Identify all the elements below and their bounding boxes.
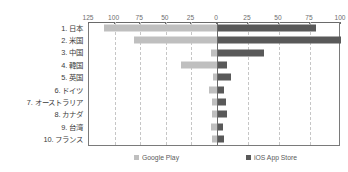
x-axis-tick-labels: 1251007550250255075100 [88, 13, 340, 22]
bar-google-play [181, 62, 217, 69]
x-axis-tick-label: 100 [334, 13, 345, 22]
plot-area [88, 22, 340, 146]
bar-ios-app-store [217, 37, 341, 44]
legend-item-google-play: Google Play [134, 154, 179, 161]
bar-rows [89, 22, 339, 145]
legend-label-ios-app-store: iOS App Store [254, 154, 297, 161]
x-axis-tick-label: 100 [108, 13, 119, 22]
bar-row [89, 96, 339, 108]
bar-row [89, 71, 339, 83]
category-label: 7. オーストラリア [0, 96, 86, 108]
x-axis-tick-label: 25 [243, 13, 250, 22]
bar-google-play [209, 86, 217, 93]
category-axis-labels: 1. 日本2. 米国3. 中国4. 韓国5. 英国6. ドイツ7. オーストラリ… [0, 22, 86, 146]
x-axis-tick-label: 75 [136, 13, 143, 22]
legend-swatch-google-play [134, 155, 139, 160]
zero-axis-line [217, 22, 218, 145]
category-label: 9. 台湾 [0, 121, 86, 133]
bar-row [89, 59, 339, 71]
bar-row [89, 133, 339, 145]
bar-ios-app-store [217, 135, 224, 142]
bar-google-play [134, 37, 217, 44]
bar-ios-app-store [217, 25, 316, 32]
x-axis-tick-label: 50 [274, 13, 281, 22]
category-label: 10. フランス [0, 134, 86, 146]
bar-row [89, 120, 339, 132]
bar-row [89, 108, 339, 120]
x-axis-tick-label: 0 [214, 13, 218, 22]
bar-ios-app-store [217, 62, 227, 69]
bar-ios-app-store [217, 98, 226, 105]
bar-ios-app-store [217, 86, 224, 93]
x-axis-tick-label: 75 [305, 13, 312, 22]
x-axis-tick-label: 25 [187, 13, 194, 22]
category-label: 8. カナダ [0, 109, 86, 121]
chart-legend: Google Play iOS App Store [88, 150, 340, 164]
bar-ios-app-store [217, 49, 264, 56]
butterfly-bar-chart: 1. 日本2. 米国3. 中国4. 韓国5. 英国6. ドイツ7. オーストラリ… [0, 0, 348, 172]
category-label: 5. 英国 [0, 72, 86, 84]
x-axis-tick-mark [340, 22, 341, 24]
category-label: 4. 韓国 [0, 59, 86, 71]
bar-row [89, 34, 339, 46]
x-axis-tick-label: 125 [82, 13, 93, 22]
legend-item-ios-app-store: iOS App Store [246, 154, 297, 161]
bar-ios-app-store [217, 74, 231, 81]
bar-row [89, 47, 339, 59]
category-label: 6. ドイツ [0, 84, 86, 96]
category-label: 1. 日本 [0, 22, 86, 34]
category-label: 2. 米国 [0, 34, 86, 46]
legend-label-google-play: Google Play [142, 154, 179, 161]
x-axis-tick-label: 50 [161, 13, 168, 22]
bar-ios-app-store [217, 111, 227, 118]
bar-google-play [104, 25, 217, 32]
category-label: 3. 中国 [0, 47, 86, 59]
legend-swatch-ios-app-store [246, 155, 251, 160]
bar-row [89, 83, 339, 95]
bar-row [89, 22, 339, 34]
